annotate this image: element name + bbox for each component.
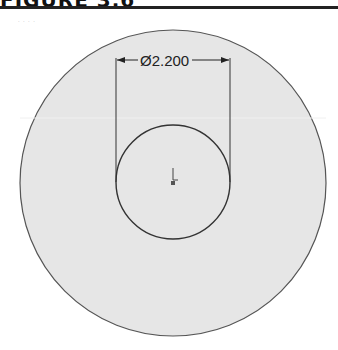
figure-page: FIGURE 3.6 · · · · Ø2.200 [0, 0, 338, 350]
sketch-drawing: Ø2.200 [0, 0, 338, 350]
dimension-label[interactable]: Ø2.200 [140, 52, 189, 69]
